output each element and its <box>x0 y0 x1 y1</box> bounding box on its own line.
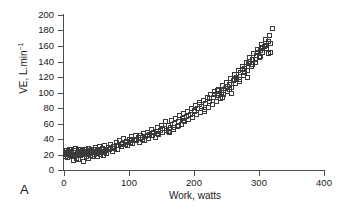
data-point <box>114 143 119 148</box>
y-tick-label: 120 <box>26 72 54 82</box>
y-tick <box>58 15 63 16</box>
data-point <box>181 118 186 123</box>
y-axis-title-exponent: −1 <box>17 42 24 50</box>
y-tick-label: 140 <box>26 57 54 67</box>
x-axis-title: Work, watts <box>120 190 270 201</box>
y-tick <box>58 46 63 47</box>
y-axis-title: VE, L.min−1 <box>17 8 29 128</box>
data-point <box>220 95 225 100</box>
y-tick-label: 20 <box>26 150 54 160</box>
y-tick <box>58 124 63 125</box>
y-tick-label: 60 <box>26 119 54 129</box>
data-point <box>227 87 232 92</box>
data-point <box>237 79 242 84</box>
data-point <box>267 33 272 38</box>
data-point <box>268 41 273 46</box>
data-point <box>186 113 191 118</box>
y-tick <box>58 93 63 94</box>
data-point <box>64 152 69 157</box>
data-point <box>242 70 247 75</box>
data-point <box>207 96 212 101</box>
data-point <box>197 102 202 107</box>
x-tick-label: 0 <box>44 178 84 188</box>
x-tick-label: 100 <box>109 178 149 188</box>
y-tick-label: 0 <box>26 165 54 175</box>
panel-label: A <box>20 182 29 197</box>
x-axis-title-text: Work, watts <box>169 190 221 201</box>
data-point <box>98 149 103 154</box>
data-point <box>77 152 82 157</box>
y-tick <box>58 170 63 171</box>
data-point <box>212 92 217 97</box>
y-tick-label: 40 <box>26 134 54 144</box>
data-point <box>232 77 237 82</box>
data-point <box>103 148 108 153</box>
data-point <box>140 135 145 140</box>
data-point <box>134 137 139 142</box>
x-tick <box>194 171 195 176</box>
data-point <box>221 88 226 93</box>
data-point <box>150 133 155 138</box>
data-point <box>253 57 258 62</box>
data-point <box>160 126 165 131</box>
x-tick <box>324 171 325 176</box>
y-tick <box>58 30 63 31</box>
data-point <box>176 123 181 128</box>
x-tick-label: 400 <box>304 178 344 188</box>
data-point <box>108 146 113 151</box>
data-point <box>93 150 98 155</box>
y-tick-label: 200 <box>26 10 54 20</box>
x-tick <box>259 171 260 176</box>
data-point <box>268 50 273 55</box>
data-point <box>88 150 93 155</box>
data-point <box>192 108 197 113</box>
y-tick <box>58 77 63 78</box>
figure-panel-a: 020406080100120140160180200 010020030040… <box>0 0 355 212</box>
data-point <box>202 109 207 114</box>
y-tick-label: 180 <box>26 25 54 35</box>
y-tick-label: 100 <box>26 88 54 98</box>
y-tick-label: 160 <box>26 41 54 51</box>
data-point <box>124 140 129 145</box>
y-tick <box>58 139 63 140</box>
data-point <box>145 133 150 138</box>
scatter-plot-area <box>64 15 324 170</box>
x-tick-label: 300 <box>239 178 279 188</box>
data-point <box>82 151 87 156</box>
data-point <box>119 142 124 147</box>
data-point <box>247 59 252 64</box>
y-axis-title-text: VE, L.min <box>18 50 29 93</box>
data-point <box>155 131 160 136</box>
x-tick <box>129 171 130 176</box>
y-tick <box>58 108 63 109</box>
data-point <box>245 75 250 80</box>
data-point <box>258 54 263 59</box>
data-point <box>270 26 275 31</box>
y-tick <box>58 62 63 63</box>
y-tick-label: 80 <box>26 103 54 113</box>
x-tick-label: 200 <box>174 178 214 188</box>
data-point <box>72 153 77 158</box>
data-point <box>263 43 268 48</box>
data-point <box>129 138 134 143</box>
x-tick <box>64 171 65 176</box>
